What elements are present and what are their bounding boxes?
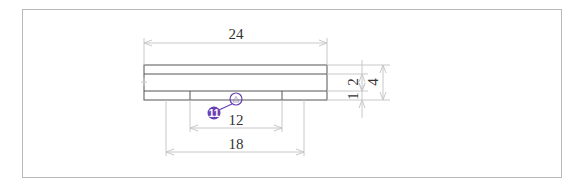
callout-target-circle — [230, 93, 242, 105]
dimension-label-18: 18 — [229, 136, 244, 152]
triangle-icon — [233, 97, 239, 103]
dimension-label-24: 24 — [229, 26, 245, 42]
part-body — [144, 65, 327, 100]
dimension-overall-width — [144, 38, 327, 65]
datum-mark-icon — [141, 78, 147, 86]
technical-drawing: 24 12 18 2 1 4 — [0, 0, 585, 189]
dimension-label-2: 2 — [345, 78, 361, 86]
dimension-layer-heights — [359, 60, 365, 118]
dimension-label-1: 1 — [345, 92, 361, 100]
dimension-label-12: 12 — [229, 112, 244, 128]
balloon-label: 11 — [209, 108, 220, 119]
leader-line — [219, 104, 232, 110]
dimension-label-4: 4 — [365, 78, 381, 86]
